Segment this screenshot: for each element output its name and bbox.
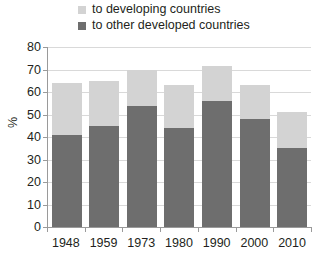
bar-segment-developed bbox=[127, 106, 157, 228]
x-axis-tick-label: 1959 bbox=[89, 236, 119, 250]
x-axis-tick-label: 2000 bbox=[239, 236, 269, 250]
x-axis-tick-label: 1973 bbox=[126, 236, 156, 250]
y-axis-title: % bbox=[6, 117, 20, 128]
bar-segment-developed bbox=[202, 101, 232, 227]
bar-column bbox=[164, 47, 194, 227]
y-axis-tick-label: 60 bbox=[27, 85, 41, 99]
x-axis-tick bbox=[122, 227, 123, 232]
legend-item-developing: to developing countries bbox=[78, 2, 250, 17]
bar-column bbox=[89, 47, 119, 227]
bar-segment-developing bbox=[164, 85, 194, 128]
x-axis-tick-label: 2010 bbox=[277, 236, 307, 250]
bar-column bbox=[240, 47, 270, 227]
x-axis-tick bbox=[236, 227, 237, 232]
y-axis-tick-label: 50 bbox=[27, 108, 41, 122]
bar-segment-developing bbox=[277, 112, 307, 148]
bar-column bbox=[202, 47, 232, 227]
y-axis-tick-label: 10 bbox=[27, 198, 41, 212]
bar-segment-developing bbox=[240, 85, 270, 119]
y-axis-tick-label: 70 bbox=[27, 63, 41, 77]
x-axis-tick-label: 1948 bbox=[51, 236, 81, 250]
x-axis-tick-label: 1990 bbox=[202, 236, 232, 250]
bar-column bbox=[277, 47, 307, 227]
legend-swatch-developed-icon bbox=[78, 22, 86, 30]
legend-swatch-developing-icon bbox=[78, 6, 86, 14]
legend-item-developed: to other developed countries bbox=[78, 18, 250, 33]
y-axis-tick-label: 80 bbox=[27, 40, 41, 54]
bar-segment-developed bbox=[89, 126, 119, 227]
stacked-bar-chart: to developing countries to other develop… bbox=[0, 0, 321, 262]
x-axis-labels: 1948195919731980199020002010 bbox=[47, 236, 311, 250]
x-axis-tick bbox=[85, 227, 86, 232]
bar-segment-developed bbox=[240, 119, 270, 227]
bar-column bbox=[52, 47, 82, 227]
y-axis-tick-label: 40 bbox=[27, 130, 41, 144]
bar-group bbox=[48, 47, 311, 227]
plot-area: 80706050403020100 bbox=[47, 47, 311, 227]
bar-segment-developing bbox=[52, 83, 82, 135]
bar-segment-developed bbox=[52, 135, 82, 227]
y-axis-tick-label: 20 bbox=[27, 175, 41, 189]
bar-segment-developed bbox=[164, 128, 194, 227]
x-axis-tick bbox=[273, 227, 274, 232]
bar-segment-developing bbox=[127, 70, 157, 106]
bar-segment-developed bbox=[277, 148, 307, 227]
x-axis-tick bbox=[47, 227, 48, 232]
bar-segment-developing bbox=[89, 81, 119, 126]
x-axis-tick bbox=[311, 227, 312, 232]
legend-label-developing: to developing countries bbox=[92, 2, 221, 17]
bar-segment-developing bbox=[202, 66, 232, 101]
x-axis-tick bbox=[160, 227, 161, 232]
legend-label-developed: to other developed countries bbox=[92, 18, 250, 33]
chart-legend: to developing countries to other develop… bbox=[78, 2, 250, 33]
x-axis-tick bbox=[198, 227, 199, 232]
bar-column bbox=[127, 47, 157, 227]
x-axis-tick-label: 1980 bbox=[164, 236, 194, 250]
y-axis-tick-label: 0 bbox=[34, 220, 41, 234]
x-axis: 1948195919731980199020002010 bbox=[47, 227, 311, 261]
y-axis-tick-label: 30 bbox=[27, 153, 41, 167]
